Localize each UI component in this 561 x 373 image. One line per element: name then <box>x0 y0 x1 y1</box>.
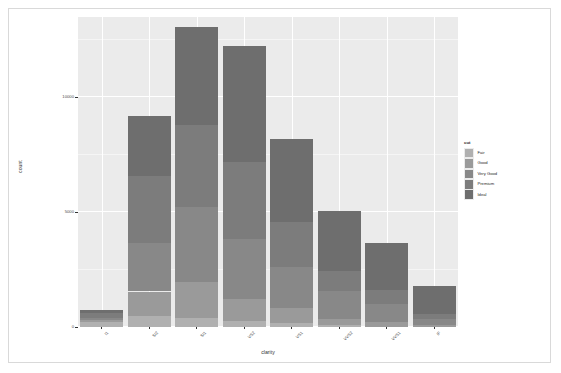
x-tick-label: VS1 <box>295 331 304 340</box>
bar-segment[interactable] <box>223 239 266 298</box>
x-tick-mark <box>339 327 340 329</box>
bar-segment[interactable] <box>80 310 123 313</box>
x-tick-mark <box>196 327 197 329</box>
legend-swatch <box>464 148 474 158</box>
legend-item[interactable]: Premium <box>464 179 544 189</box>
x-tick-mark <box>101 327 102 329</box>
legend-swatch <box>464 158 474 168</box>
bar-group[interactable] <box>270 17 313 327</box>
bar-group[interactable] <box>128 17 171 327</box>
x-axis-title: clarity <box>78 350 458 355</box>
y-tick-mark <box>75 212 77 213</box>
x-tick-mark <box>291 327 292 329</box>
bar-segment[interactable] <box>318 291 361 319</box>
bar-group[interactable] <box>318 17 361 327</box>
legend-item[interactable]: Good <box>464 158 544 168</box>
y-axis-title: count <box>18 137 23 197</box>
legend-swatch <box>464 179 474 189</box>
x-tick-mark <box>244 327 245 329</box>
legend: cut FairGoodVery GoodPremiumIdeal <box>464 141 544 200</box>
ggplot-chart: 0500010000 I1SI2SI1VS2VS1VVS2VVS1IF coun… <box>9 9 552 364</box>
y-tick-mark <box>75 327 77 328</box>
bar-segment[interactable] <box>175 207 218 281</box>
x-tick-mark <box>386 327 387 329</box>
legend-label: Very Good <box>477 172 497 176</box>
bar-segment[interactable] <box>80 320 123 322</box>
bar-segment[interactable] <box>175 318 218 327</box>
legend-swatch <box>464 169 474 179</box>
bar-segment[interactable] <box>270 267 313 308</box>
bar-segment[interactable] <box>175 125 218 207</box>
bar-segment[interactable] <box>318 271 361 291</box>
legend-swatch <box>464 189 474 199</box>
x-tick-label: SI1 <box>200 331 207 338</box>
bar-segment[interactable] <box>270 308 313 323</box>
y-tick-label: 10000 <box>62 95 74 99</box>
bar-segment[interactable] <box>175 282 218 318</box>
bar-segment[interactable] <box>413 319 456 325</box>
x-tick-label: SI2 <box>152 331 159 338</box>
x-tick-label: VS2 <box>248 331 257 340</box>
x-tick-mark <box>434 327 435 329</box>
bar-segment[interactable] <box>365 243 408 290</box>
x-tick-mark <box>149 327 150 329</box>
x-tick-label: IF <box>436 331 442 337</box>
bar-segment[interactable] <box>413 286 456 314</box>
bar-group[interactable] <box>80 17 123 327</box>
bar-segment[interactable] <box>175 27 218 125</box>
bar-segment[interactable] <box>365 304 408 322</box>
plot-device-frame: 0500010000 I1SI2SI1VS2VS1VVS2VVS1IF coun… <box>8 8 551 363</box>
bar-group[interactable] <box>223 17 266 327</box>
bar-segment[interactable] <box>128 243 171 291</box>
legend-items: FairGoodVery GoodPremiumIdeal <box>464 148 544 200</box>
bar-segment[interactable] <box>128 292 171 317</box>
legend-label: Premium <box>477 182 494 186</box>
bar-segment[interactable] <box>223 162 266 239</box>
bar-group[interactable] <box>175 17 218 327</box>
legend-item[interactable]: Very Good <box>464 169 544 179</box>
bar-segment[interactable] <box>223 46 266 162</box>
bar-segment[interactable] <box>365 290 408 304</box>
bar-group[interactable] <box>365 17 408 327</box>
x-tick-label: VVS1 <box>391 331 402 342</box>
bar-segment[interactable] <box>413 314 456 319</box>
y-tick-label: 0 <box>72 325 74 329</box>
legend-title: cut <box>464 141 544 145</box>
bar-segment[interactable] <box>318 211 361 271</box>
y-tick-mark <box>75 97 77 98</box>
bar-segment[interactable] <box>223 299 266 321</box>
bar-group[interactable] <box>413 17 456 327</box>
bar-segment[interactable] <box>318 319 361 326</box>
legend-label: Ideal <box>477 193 486 197</box>
x-tick-label: I1 <box>104 331 109 336</box>
bar-segment[interactable] <box>128 116 171 176</box>
x-tick-label: VVS2 <box>343 331 354 342</box>
legend-label: Good <box>477 161 487 165</box>
bar-segment[interactable] <box>270 222 313 268</box>
bar-segment[interactable] <box>80 313 123 318</box>
bar-segment[interactable] <box>270 139 313 221</box>
bar-segment[interactable] <box>365 322 408 326</box>
y-tick-label: 5000 <box>65 210 74 214</box>
bar-segment[interactable] <box>80 318 123 320</box>
legend-item[interactable]: Fair <box>464 148 544 158</box>
plot-panel <box>78 17 458 327</box>
legend-item[interactable]: Ideal <box>464 189 544 199</box>
bar-segment[interactable] <box>128 316 171 327</box>
legend-label: Fair <box>477 151 484 155</box>
bar-segment[interactable] <box>128 176 171 244</box>
